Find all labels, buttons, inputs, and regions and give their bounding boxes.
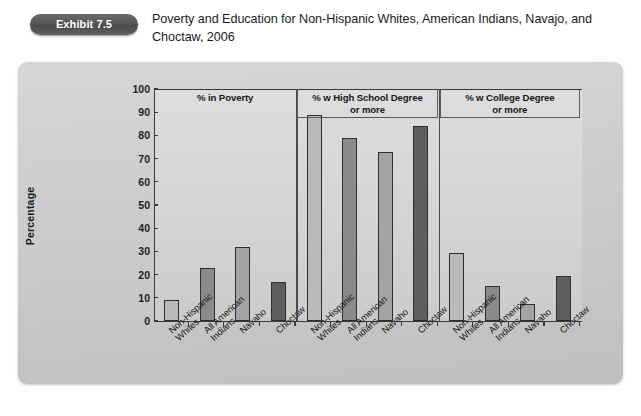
y-axis-tick-label: 0: [122, 316, 150, 327]
y-axis-tick-label: 70: [122, 153, 150, 164]
y-axis-tick-mark: [154, 320, 158, 321]
panel-title-line: % w College Degree: [441, 92, 579, 104]
y-axis-tick-mark: [154, 112, 158, 113]
y-axis-tick-mark: [154, 251, 158, 252]
y-axis-tick-label: 60: [122, 177, 150, 188]
bar: [271, 282, 286, 321]
panel-title: % w College Degreeor more: [440, 90, 580, 118]
exhibit-badge: Exhibit 7.5: [30, 14, 138, 35]
y-axis-tick-label: 10: [122, 293, 150, 304]
panel-title-line: or more: [298, 104, 436, 116]
y-axis-tick-mark: [154, 204, 158, 205]
y-axis-tick-label: 80: [122, 130, 150, 141]
panel-title-line: % in Poverty: [155, 92, 295, 104]
y-axis-tick-mark: [154, 181, 158, 182]
bar: [307, 115, 322, 321]
y-axis-tick-label: 90: [122, 107, 150, 118]
chart-card: Percentage 0102030405060708090100 % in P…: [18, 62, 623, 384]
y-axis-label: Percentage: [24, 187, 36, 246]
y-axis-tick-label: 100: [122, 84, 150, 95]
panel-separator: [439, 89, 440, 322]
y-axis-tick-label: 30: [122, 246, 150, 257]
bar: [413, 126, 428, 321]
bar: [449, 253, 464, 321]
exhibit-header: Exhibit 7.5 Poverty and Education for No…: [0, 0, 641, 62]
page-title: Poverty and Education for Non-Hispanic W…: [152, 11, 622, 47]
y-axis-tick-mark: [154, 297, 158, 298]
y-axis-tick-label: 40: [122, 223, 150, 234]
panel-separator: [296, 89, 297, 322]
y-axis-tick-mark: [154, 158, 158, 159]
bars-layer: [155, 89, 581, 321]
panel-title-line: % w High School Degree: [298, 92, 436, 104]
y-axis-tick-mark: [154, 274, 158, 275]
y-axis-tick-mark: [154, 135, 158, 136]
panel-title-line: or more: [441, 104, 579, 116]
panel-title: % w High School Degreeor more: [297, 90, 437, 118]
panel-title: % in Poverty: [155, 90, 295, 106]
y-axis-tick-label: 50: [122, 200, 150, 211]
y-axis-tick-mark: [154, 228, 158, 229]
y-axis-tick-label: 20: [122, 269, 150, 280]
bar: [556, 276, 571, 321]
y-axis-ticks: 0102030405060708090100: [114, 62, 150, 384]
